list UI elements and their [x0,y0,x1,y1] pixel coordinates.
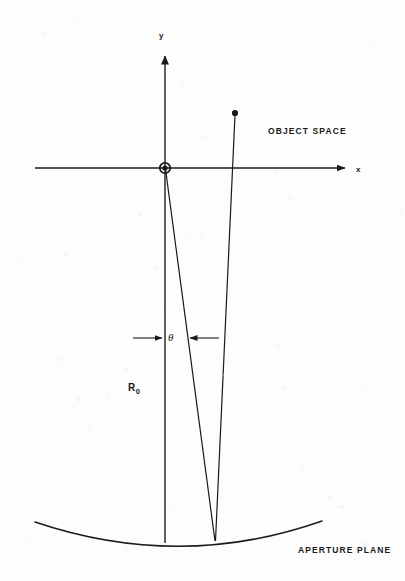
aperture-plane-curve [35,521,322,546]
axis-ray-line [166,169,216,541]
object-ray-line [216,115,236,541]
r0-distance-label: R0 [128,382,139,393]
aperture-plane-label: APERTURE PLANE [298,545,391,555]
ray-diagram-svg [0,0,405,581]
r0-base-symbol: R [128,382,135,393]
origin-marker-dot [162,165,167,170]
r0-subscript: 0 [136,387,140,396]
object-space-label: OBJECT SPACE [268,126,347,136]
figure-canvas: y x OBJECT SPACE APERTURE PLANE θ R0 [0,0,405,581]
y-axis-label: y [159,31,163,40]
x-axis-label: x [356,165,360,174]
object-point-dot [232,110,238,116]
theta-angle-label: θ [168,331,173,343]
